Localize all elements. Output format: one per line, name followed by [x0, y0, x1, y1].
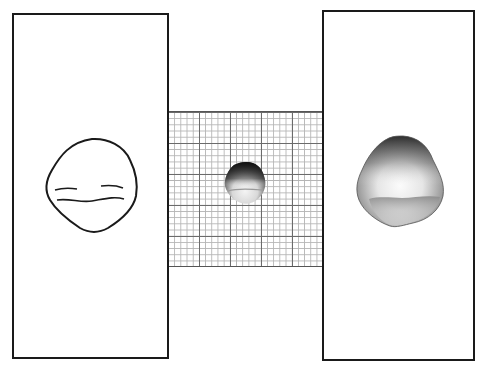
- large-shaded-specimen: [0, 0, 485, 372]
